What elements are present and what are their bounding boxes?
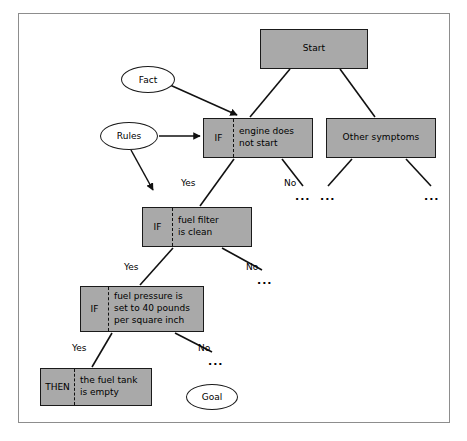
ellipse-rules[interactable]: Rules [100, 122, 158, 150]
node-start[interactable]: Start [260, 29, 368, 69]
node-the-fuel-tank-is-empty[interactable]: THEN the fuel tank is empty [40, 368, 152, 406]
ellipse-goal[interactable]: Goal [186, 384, 238, 410]
node-fuel-filter-keyword: IF [143, 208, 173, 246]
edge-label-yes-2: Yes [124, 262, 139, 272]
ellipsis-marker-other-left: ... [320, 191, 336, 202]
node-then-keyword: THEN [41, 369, 75, 405]
ellipsis-marker-other-right: ... [424, 191, 440, 202]
ellipse-rules-label: Rules [117, 131, 141, 141]
node-fuel-pressure[interactable]: IF fuel pressure is set to 40 pounds per… [80, 286, 204, 332]
edge-label-no-3: No [198, 343, 210, 353]
edge-label-yes-3: Yes [72, 343, 87, 353]
node-engine-text: engine does not start [234, 126, 312, 149]
node-fuel-pressure-keyword: IF [81, 287, 109, 331]
edge-label-no-2: No [246, 262, 258, 272]
ellipsis-marker-no-3: ... [208, 356, 224, 367]
ellipse-fact-label: Fact [139, 75, 157, 85]
node-other-symptoms[interactable]: Other symptoms [326, 118, 436, 158]
ellipse-fact[interactable]: Fact [121, 66, 175, 93]
edge-label-no-1: No [284, 178, 296, 188]
diagram-canvas: Start IF engine does not start Other sym… [0, 0, 467, 441]
node-fuel-filter-text: fuel filter is clean [173, 215, 251, 238]
ellipsis-marker-no-2: ... [257, 275, 273, 286]
ellipsis-marker-no-1: ... [295, 191, 311, 202]
node-start-label: Start [303, 43, 326, 54]
node-other-symptoms-label: Other symptoms [343, 132, 420, 143]
node-fuel-pressure-text: fuel pressure is set to 40 pounds per sq… [109, 291, 203, 326]
edge-label-yes-1: Yes [181, 178, 196, 188]
node-engine-does-not-start[interactable]: IF engine does not start [203, 118, 313, 158]
node-fuel-filter-is-clean[interactable]: IF fuel filter is clean [142, 207, 252, 247]
ellipse-goal-label: Goal [202, 392, 223, 402]
node-then-text: the fuel tank is empty [75, 375, 151, 398]
node-engine-keyword: IF [204, 119, 234, 157]
